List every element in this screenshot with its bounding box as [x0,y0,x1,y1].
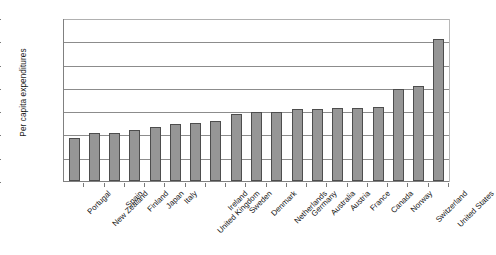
x-tick-mark [185,183,186,187]
x-tick-mark [448,183,449,187]
x-tick-mark [83,183,84,187]
x-tick-mark [245,183,246,187]
y-tick-mark [0,135,1,136]
gridline [64,66,449,67]
bar [69,138,80,181]
bar [352,108,363,181]
bar [373,107,384,181]
x-tick-mark [104,183,105,187]
bar [109,133,120,181]
x-axis-label: Portugal [86,189,113,216]
y-tick-mark [0,182,1,183]
x-axis-label: Denmark [269,189,298,218]
y-tick-mark [0,19,1,20]
bar [170,124,181,181]
bar [190,123,201,181]
gridline [64,42,449,43]
bar [251,112,262,181]
y-tick-mark [0,89,1,90]
x-tick-mark [124,183,125,187]
bar [332,108,343,181]
y-axis-title: Per capita expenditures [19,18,28,168]
plot-frame-bottom [64,181,449,182]
y-tick-mark [0,42,1,43]
gridline [64,89,449,90]
bar [292,109,303,181]
x-tick-mark [407,183,408,187]
y-tick-mark [0,159,1,160]
plot-frame-top [64,19,449,20]
y-tick-mark [0,112,1,113]
x-tick-mark [144,183,145,187]
bar [231,114,242,181]
bar [413,86,424,181]
x-tick-mark [205,183,206,187]
bar [433,39,444,181]
x-tick-mark [164,183,165,187]
bar [271,112,282,181]
x-axis-label: France [368,189,392,213]
bar [89,133,100,181]
x-tick-mark [266,183,267,187]
x-axis-label: Italy [183,189,200,206]
x-tick-mark [286,183,287,187]
bar [393,89,404,181]
bar [129,130,140,181]
x-tick-mark [306,183,307,187]
bar [210,121,221,181]
x-tick-mark [428,183,429,187]
x-tick-mark [387,183,388,187]
x-tick-mark [347,183,348,187]
x-tick-mark [367,183,368,187]
bar [312,109,323,181]
y-tick-mark [0,66,1,67]
x-tick-mark [326,183,327,187]
x-tick-mark [225,183,226,187]
plot-area [63,19,450,182]
bar [150,127,161,181]
